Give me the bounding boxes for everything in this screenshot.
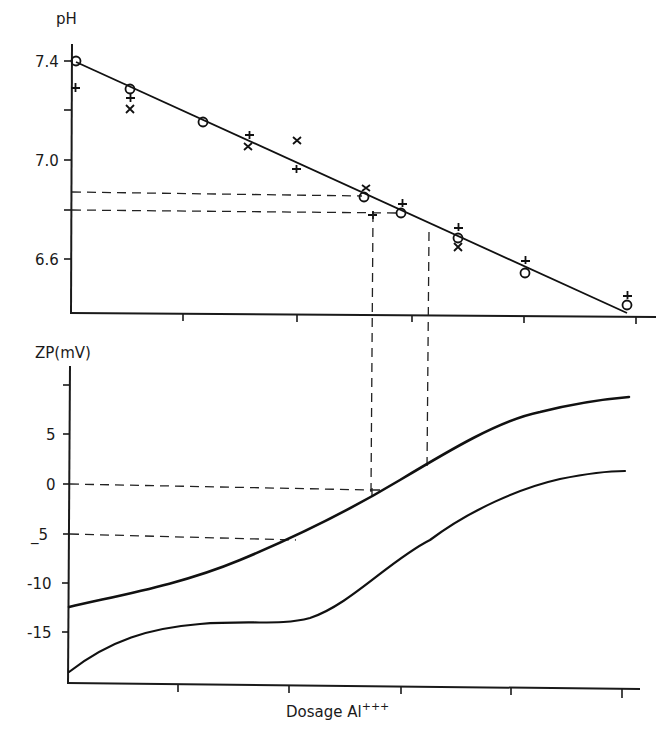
zp-axis-label: ZP(mV) bbox=[35, 344, 91, 362]
x-axis-label: Dosage Al+++ bbox=[286, 700, 389, 721]
ph-x-axis bbox=[70, 313, 656, 317]
zp-x-axis bbox=[67, 683, 640, 689]
ph-series-cross bbox=[126, 105, 462, 251]
figure: pH 7.4 7.0 6.6 bbox=[0, 0, 669, 741]
ph-tick-label-7.0: 7.0 bbox=[35, 152, 59, 170]
zp-panel: ZP(mV) 5 0 _5 -10 -15 Dosage Al+++ bbox=[27, 344, 640, 721]
ref-vertical-dash-1 bbox=[371, 213, 373, 492]
ph-series-plus bbox=[71, 83, 632, 299]
ref-vertical-dash-2 bbox=[427, 232, 429, 469]
ph-tick-label-7.4: 7.4 bbox=[35, 53, 59, 71]
zp-upper-curve bbox=[69, 397, 629, 607]
ph-series-circle bbox=[72, 57, 632, 310]
ph-panel: pH 7.4 7.0 6.6 bbox=[35, 10, 656, 324]
zp-tick-label-neg5: _5 bbox=[30, 526, 48, 545]
zp-tick-label-5: 5 bbox=[46, 426, 56, 444]
ph-axis-label: pH bbox=[56, 10, 77, 28]
zp-tick-label-neg10: -10 bbox=[27, 575, 52, 593]
ph-y-axis bbox=[71, 44, 72, 314]
zp-tick-label-neg15: -15 bbox=[27, 624, 52, 642]
ph-ref-dash-2 bbox=[72, 210, 396, 213]
zp-ref-dash-neg5 bbox=[70, 534, 296, 540]
ph-regression-line bbox=[76, 62, 627, 313]
ph-ref-dash-1 bbox=[72, 192, 362, 196]
zp-ref-dash-0 bbox=[70, 484, 372, 490]
zp-tick-label-0: 0 bbox=[46, 476, 56, 494]
zp-y-axis bbox=[68, 366, 70, 684]
ph-tick-label-6.6: 6.6 bbox=[35, 251, 59, 269]
zp-lower-curve bbox=[69, 471, 625, 672]
